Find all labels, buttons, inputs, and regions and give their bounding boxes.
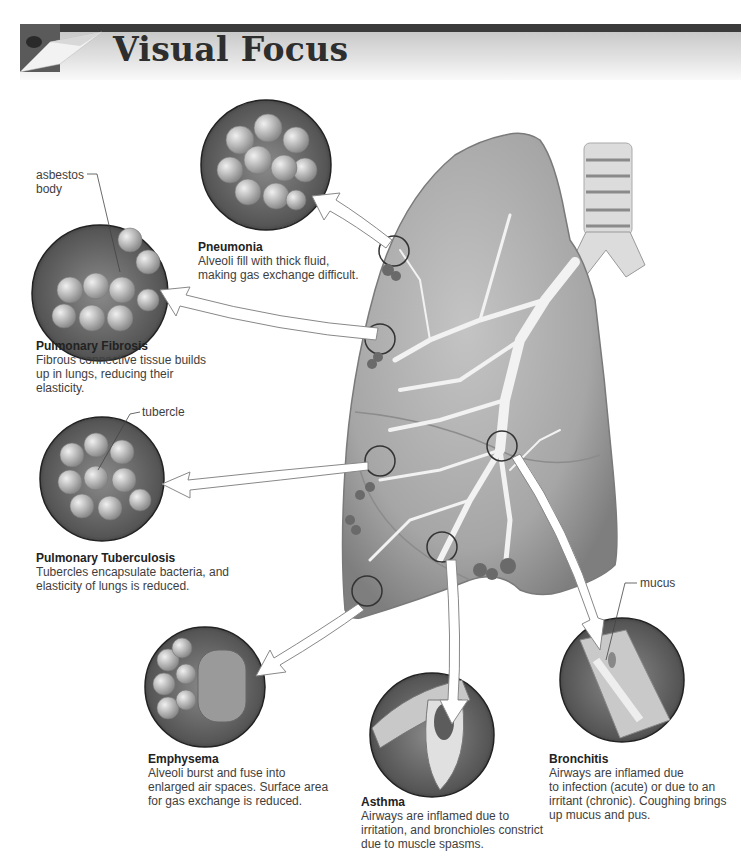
- condition-line: elasticity of lungs is reduced.: [36, 579, 229, 593]
- callout-body-line: body: [36, 182, 84, 196]
- detail-circle-bronchitis: [560, 618, 684, 742]
- condition-line: for gas exchange is reduced.: [148, 794, 328, 808]
- condition-title: Emphysema: [148, 752, 328, 766]
- label-pulmonary-tuberculosis: Pulmonary Tuberculosis Tubercles encapsu…: [36, 551, 229, 593]
- trachea: [570, 143, 645, 277]
- condition-line: to infection (acute) or due to an: [549, 780, 726, 794]
- condition-title: Bronchitis: [549, 752, 726, 766]
- label-asthma: Asthma Airways are inflamed due to irrit…: [361, 795, 543, 851]
- condition-line: up mucus and pus.: [549, 808, 726, 822]
- condition-line: elasticity.: [36, 381, 206, 395]
- condition-line: Airways are inflamed due to: [361, 809, 543, 823]
- detail-circle-pneumonia: [201, 100, 331, 230]
- label-emphysema: Emphysema Alveoli burst and fuse into en…: [148, 752, 328, 808]
- condition-title: Pulmonary Fibrosis: [36, 339, 206, 353]
- condition-line: Tubercles encapsulate bacteria, and: [36, 565, 229, 579]
- lung-illustration: [0, 0, 741, 859]
- callout-asbestos-body: asbestos body: [36, 168, 84, 196]
- label-pneumonia: Pneumonia Alveoli fill with thick fluid,…: [198, 240, 359, 282]
- detail-circle-tuberculosis: [40, 417, 164, 541]
- condition-line: irritant (chronic). Coughing brings: [549, 794, 726, 808]
- condition-title: Asthma: [361, 795, 543, 809]
- condition-line: Alveoli fill with thick fluid,: [198, 254, 359, 268]
- label-pulmonary-fibrosis: Pulmonary Fibrosis Fibrous connective ti…: [36, 339, 206, 395]
- detail-circle-emphysema: [145, 627, 265, 747]
- callout-asbestos-line: asbestos: [36, 168, 84, 182]
- condition-line: making gas exchange difficult.: [198, 268, 359, 282]
- condition-line: enlarged air spaces. Surface area: [148, 780, 328, 794]
- condition-line: Alveoli burst and fuse into: [148, 766, 328, 780]
- condition-title: Pulmonary Tuberculosis: [36, 551, 229, 565]
- condition-line: Airways are inflamed due: [549, 766, 726, 780]
- detail-circle-asthma: [370, 673, 494, 797]
- condition-line: up in lungs, reducing their: [36, 367, 206, 381]
- label-bronchitis: Bronchitis Airways are inflamed due to i…: [549, 752, 726, 822]
- condition-title: Pneumonia: [198, 240, 359, 254]
- condition-line: irritation, and bronchioles constrict: [361, 823, 543, 837]
- condition-line: due to muscle spasms.: [361, 837, 543, 851]
- callout-tubercle: tubercle: [142, 405, 185, 419]
- callout-mucus: mucus: [640, 576, 675, 590]
- condition-line: Fibrous connective tissue builds: [36, 353, 206, 367]
